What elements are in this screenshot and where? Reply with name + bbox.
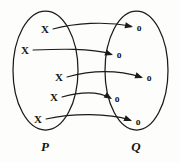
set-names-layer: PQ xyxy=(41,139,141,154)
set-p-element-0: X xyxy=(41,23,49,35)
arrows-layer xyxy=(33,22,144,124)
arrow-2-line xyxy=(33,49,111,54)
arrow-3-head xyxy=(134,72,144,81)
arrow-1-head xyxy=(125,22,134,30)
mapping-diagram-canvas: XXXXXooooo PQ xyxy=(0,0,180,163)
set-q-element-3: o xyxy=(115,94,120,104)
arrow-5-line xyxy=(46,115,130,120)
arrow-5-head xyxy=(123,115,133,124)
set-q-element-2: o xyxy=(147,73,152,83)
set-q-element-0: o xyxy=(137,23,142,33)
set-q-element-4: o xyxy=(136,117,141,127)
set-label-p: P xyxy=(41,139,50,154)
arrow-4-line xyxy=(62,93,110,98)
set-p-element-4: X xyxy=(34,113,42,125)
set-p-element-3: X xyxy=(50,91,58,103)
set-q-element-1: o xyxy=(117,50,122,60)
diagram-svg: XXXXXooooo PQ xyxy=(0,0,180,163)
set-p-element-2: X xyxy=(55,71,63,83)
set-p-element-1: X xyxy=(21,44,29,56)
set-label-q: Q xyxy=(131,139,141,154)
arrow-1-line xyxy=(53,23,131,29)
